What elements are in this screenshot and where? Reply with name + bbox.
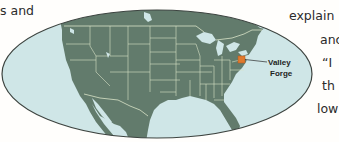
location-marker-icon — [238, 56, 245, 63]
location-label-line2: Forge — [270, 69, 293, 78]
location-label-line1: Valley — [268, 58, 291, 67]
us-map: Valley Forge — [0, 0, 339, 142]
textbook-page: s and explain anc “I th low — [0, 0, 339, 142]
